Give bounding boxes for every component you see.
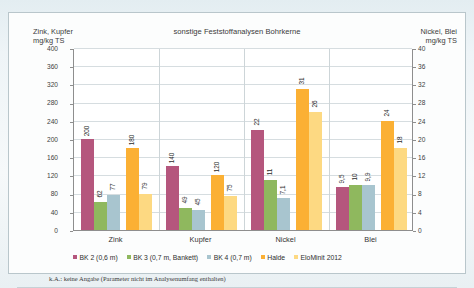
bar[interactable]: 10	[349, 185, 362, 231]
legend-label: Halde	[267, 254, 285, 261]
bar-group: 9,5109,92418	[329, 49, 414, 230]
bar-value-label: 140	[168, 150, 177, 166]
tick-mark	[70, 195, 73, 196]
bar-value-text: 49	[182, 196, 188, 203]
bar-value-label: 9,9	[364, 169, 373, 185]
bar[interactable]: 31	[296, 89, 309, 230]
legend-item[interactable]: Halde	[261, 254, 285, 261]
legend-item[interactable]: BK 4 (0,7 m)	[207, 254, 252, 261]
bar[interactable]: 22	[251, 130, 264, 230]
bar-group: 22117,13126	[244, 49, 329, 230]
left-tick-label: 40	[32, 210, 58, 217]
bar-value-label: 10	[351, 169, 360, 185]
legend-label: EloMinit 2012	[301, 254, 342, 261]
legend-swatch	[207, 255, 211, 259]
category-label: Kupfer	[158, 235, 243, 244]
tick-mark	[70, 67, 73, 68]
tick-mark	[413, 67, 416, 68]
legend-swatch	[73, 255, 77, 259]
bar[interactable]: 75	[224, 196, 237, 230]
tick-mark	[70, 176, 73, 177]
bar[interactable]: 26	[309, 112, 322, 230]
bar-value-text: 18	[397, 137, 403, 144]
tick-mark	[70, 49, 73, 50]
right-tick-label: 32	[418, 82, 444, 89]
bar-slot: 45	[192, 49, 205, 230]
tick-mark	[413, 49, 416, 50]
bar-value-text: 77	[110, 183, 116, 190]
tick-mark	[413, 85, 416, 86]
legend-swatch	[261, 255, 265, 259]
bar-value-text: 180	[129, 135, 135, 146]
right-tick-label: 4	[418, 210, 444, 217]
bar-slot: 26	[309, 49, 322, 230]
legend-item[interactable]: BK 3 (0,7 m, Bankett)	[127, 254, 198, 261]
bar[interactable]: 120	[211, 175, 224, 230]
bar[interactable]: 180	[126, 148, 139, 230]
tick-mark	[70, 104, 73, 105]
legend-swatch	[294, 255, 298, 259]
bar-slot: 9,5	[336, 49, 349, 230]
category-label: Zink	[73, 235, 158, 244]
bar-value-label: 200	[83, 123, 92, 139]
left-tick-label: 120	[32, 173, 58, 180]
left-tick-label: 160	[32, 155, 58, 162]
left-tick-label: 360	[32, 64, 58, 71]
tick-mark	[413, 195, 416, 196]
legend-swatch	[127, 255, 131, 259]
bar[interactable]: 62	[94, 202, 107, 230]
bar-value-text: 120	[214, 162, 220, 173]
legend-label: BK 4 (0,7 m)	[214, 254, 252, 261]
tick-mark	[70, 85, 73, 86]
bar-value-label: 49	[181, 192, 190, 208]
bar-value-label: 22	[253, 114, 262, 130]
bar-slot: 62	[94, 49, 107, 230]
bar-value-label: 120	[213, 159, 222, 175]
bar[interactable]: 140	[166, 166, 179, 230]
bar[interactable]: 77	[107, 195, 120, 230]
bar[interactable]: 9,9	[362, 185, 375, 230]
bar-slot: 79	[139, 49, 152, 230]
bar-value-label: 11	[266, 164, 275, 180]
bar-value-label: 26	[311, 96, 320, 112]
tick-mark	[413, 231, 416, 232]
left-tick-label: 0	[32, 228, 58, 235]
bar-value-text: 10	[352, 173, 358, 180]
bar[interactable]: 200	[81, 139, 94, 230]
bar-value-text: 9,5	[339, 174, 345, 183]
bar[interactable]: 79	[139, 194, 152, 230]
bar-value-text: 22	[254, 118, 260, 125]
bar-value-label: 24	[383, 105, 392, 121]
right-tick-label: 40	[418, 46, 444, 53]
legend-label: BK 3 (0,7 m, Bankett)	[133, 254, 198, 261]
bar[interactable]: 9,5	[336, 187, 349, 230]
tick-mark	[70, 140, 73, 141]
bar-value-text: 62	[97, 190, 103, 197]
right-tick-label: 20	[418, 137, 444, 144]
left-tick-label: 240	[32, 119, 58, 126]
bar-slot: 9,9	[362, 49, 375, 230]
legend-item[interactable]: BK 2 (0,6 m)	[73, 254, 118, 261]
tick-mark	[70, 231, 73, 232]
left-tick-label: 320	[32, 82, 58, 89]
bar-slot: 140	[166, 49, 179, 230]
bar-value-label: 9,5	[338, 171, 347, 187]
bar[interactable]: 45	[192, 210, 205, 230]
bar[interactable]: 18	[394, 148, 407, 230]
legend-item[interactable]: EloMinit 2012	[294, 254, 342, 261]
bar-slot: 120	[211, 49, 224, 230]
bar-value-label: 180	[128, 132, 137, 148]
bar-value-text: 24	[384, 109, 390, 116]
plot-area: 20062771807914049451207522117,131269,510…	[73, 49, 413, 231]
bar[interactable]: 7,1	[277, 198, 290, 230]
legend-label: BK 2 (0,6 m)	[80, 254, 118, 261]
bar-value-text: 11	[267, 169, 273, 176]
bar-value-label: 79	[141, 178, 150, 194]
right-tick-label: 36	[418, 64, 444, 71]
bar-slot: 31	[296, 49, 309, 230]
bar[interactable]: 24	[381, 121, 394, 230]
chart-legend: BK 2 (0,6 m)BK 3 (0,7 m, Bankett)BK 4 (0…	[73, 251, 433, 263]
bar[interactable]: 49	[179, 208, 192, 230]
bar[interactable]: 11	[264, 180, 277, 230]
bar-value-text: 140	[169, 153, 175, 164]
